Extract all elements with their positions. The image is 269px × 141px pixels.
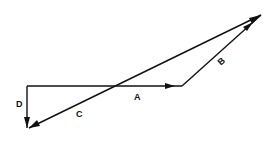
arrowhead-a-icon — [165, 83, 175, 89]
vector-d — [24, 86, 30, 128]
vector-b — [182, 15, 261, 86]
arrowhead-c-icon — [29, 120, 40, 128]
vector-c — [29, 15, 261, 128]
arrowhead-c-top-icon — [249, 15, 261, 24]
label-b: B — [216, 55, 228, 67]
vector-diagram: A B C D — [0, 0, 269, 141]
label-c: C — [76, 109, 83, 119]
vector-a — [27, 83, 182, 89]
label-a: A — [134, 92, 141, 102]
label-d: D — [16, 99, 23, 109]
arrowhead-d-icon — [24, 117, 30, 128]
